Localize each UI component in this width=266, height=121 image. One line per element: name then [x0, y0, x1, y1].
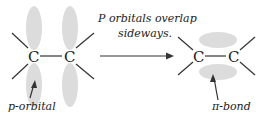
reaction-arrow: [100, 53, 174, 60]
pi-bond-label: π-bond: [212, 100, 251, 113]
atom-c1-left: C: [28, 48, 39, 66]
atom-c2-left: C: [64, 48, 75, 66]
arrow-caption-line1: P orbitals overlap: [98, 12, 197, 25]
atom-c1-right: C: [193, 48, 204, 66]
atom-c2-right: C: [228, 48, 239, 66]
p-orbital-label: p-orbital: [8, 100, 56, 113]
left-molecule-bonds: [12, 33, 94, 79]
arrow-caption-line2: sideways.: [118, 27, 172, 40]
